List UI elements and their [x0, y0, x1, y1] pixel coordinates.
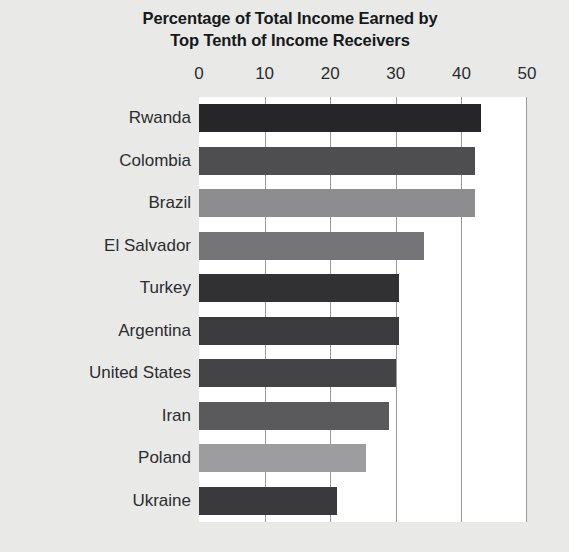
x-axis-tick-20: 20: [321, 64, 340, 84]
chart-title-line-1: Percentage of Total Income Earned by: [60, 8, 520, 30]
bar-rwanda: [199, 104, 481, 132]
x-axis-tick-30: 30: [386, 64, 405, 84]
bar-united-states: [199, 359, 396, 387]
x-axis-tick-0: 0: [194, 64, 203, 84]
category-label-turkey: Turkey: [1, 278, 191, 298]
x-axis-tick-10: 10: [255, 64, 274, 84]
bar-row: [199, 189, 527, 217]
bar-iran: [199, 402, 389, 430]
bar-row: [199, 444, 527, 472]
chart-title: Percentage of Total Income Earned by Top…: [60, 8, 520, 52]
category-label-iran: Iran: [1, 406, 191, 426]
category-label-rwanda: Rwanda: [1, 108, 191, 128]
category-label-ukraine: Ukraine: [1, 491, 191, 511]
bar-poland: [199, 444, 366, 472]
bar-colombia: [199, 147, 475, 175]
bar-row: [199, 147, 527, 175]
plot-area: [199, 97, 527, 522]
category-label-poland: Poland: [1, 448, 191, 468]
x-axis-tick-50: 50: [518, 64, 537, 84]
category-label-argentina: Argentina: [1, 321, 191, 341]
bar-turkey: [199, 274, 399, 302]
bar-ukraine: [199, 487, 337, 515]
bar-row: [199, 232, 527, 260]
category-label-colombia: Colombia: [1, 151, 191, 171]
bar-row: [199, 487, 527, 515]
bar-row: [199, 359, 527, 387]
bar-row: [199, 104, 527, 132]
bar-argentina: [199, 317, 399, 345]
bar-row: [199, 317, 527, 345]
category-label-el-salvador: El Salvador: [1, 236, 191, 256]
bar-el-salvador: [199, 232, 424, 260]
category-label-united-states: United States: [1, 363, 191, 383]
bar-brazil: [199, 189, 475, 217]
chart-title-line-2: Top Tenth of Income Receivers: [60, 30, 520, 52]
x-axis-tick-40: 40: [452, 64, 471, 84]
bar-row: [199, 274, 527, 302]
bar-row: [199, 402, 527, 430]
category-label-brazil: Brazil: [1, 193, 191, 213]
chart-figure: Percentage of Total Income Earned by Top…: [0, 0, 569, 552]
x-axis-tick-labels: 01020304050: [0, 64, 569, 88]
